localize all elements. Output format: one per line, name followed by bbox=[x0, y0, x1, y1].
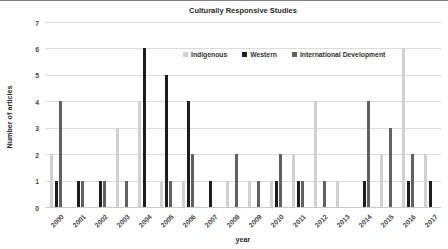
bar-international-development-2009 bbox=[257, 181, 260, 207]
bar-western-2011 bbox=[297, 181, 300, 207]
gridline bbox=[45, 75, 441, 76]
bar-international-development-2000 bbox=[59, 101, 62, 207]
bar-western-2010 bbox=[275, 181, 278, 207]
x-tick-label: 2000 bbox=[49, 213, 65, 229]
bar-international-development-2008 bbox=[235, 154, 238, 207]
x-tick-label: 2001 bbox=[71, 213, 87, 229]
bar-indigenous-2017 bbox=[424, 154, 427, 207]
x-tick-label: 2004 bbox=[137, 213, 153, 229]
legend-swatch-icon bbox=[292, 52, 297, 57]
bar-indigenous-2005 bbox=[160, 181, 163, 207]
legend-swatch-icon bbox=[183, 52, 188, 57]
bar-western-2007 bbox=[209, 181, 212, 207]
y-tick-label: 0 bbox=[0, 204, 39, 213]
y-tick-label: 5 bbox=[0, 71, 39, 80]
bar-western-2004 bbox=[143, 48, 146, 207]
bar-indigenous-2004 bbox=[138, 101, 141, 207]
bar-indigenous-2016 bbox=[402, 48, 405, 207]
bar-indigenous-2010 bbox=[270, 181, 273, 207]
x-tick-label: 2007 bbox=[203, 213, 219, 229]
bar-indigenous-2008 bbox=[226, 181, 229, 207]
gridline bbox=[45, 207, 441, 208]
bar-international-development-2005 bbox=[169, 181, 172, 207]
x-tick-label: 2009 bbox=[247, 213, 263, 229]
legend: IndigenousWesternInternational Developme… bbox=[183, 51, 385, 58]
x-tick-label: 2016 bbox=[401, 213, 417, 229]
bar-international-development-2016 bbox=[411, 154, 414, 207]
chart-title: Culturally Responsive Studies bbox=[45, 6, 441, 15]
bar-western-2005 bbox=[165, 75, 168, 207]
bar-international-development-2010 bbox=[279, 154, 282, 207]
gridline bbox=[45, 48, 441, 49]
bar-indigenous-2003 bbox=[116, 128, 119, 207]
bar-international-development-2014 bbox=[367, 101, 370, 207]
x-tick-label: 2005 bbox=[159, 213, 175, 229]
bar-chart-figure: Culturally Responsive Studies Number of … bbox=[0, 0, 448, 249]
bar-western-2002 bbox=[99, 181, 102, 207]
x-tick-label: 2003 bbox=[115, 213, 131, 229]
bar-indigenous-2015 bbox=[380, 154, 383, 207]
y-tick-label: 1 bbox=[0, 177, 39, 186]
bar-western-2017 bbox=[429, 181, 432, 207]
legend-label: International Development bbox=[300, 51, 385, 58]
bar-western-2001 bbox=[77, 181, 80, 207]
x-tick-label: 2015 bbox=[379, 213, 395, 229]
x-tick-label: 2002 bbox=[93, 213, 109, 229]
bar-international-development-2006 bbox=[191, 154, 194, 207]
x-tick-label: 2017 bbox=[423, 213, 439, 229]
bar-international-development-2001 bbox=[81, 181, 84, 207]
y-tick-label: 4 bbox=[0, 98, 39, 107]
x-tick-label: 2010 bbox=[269, 213, 285, 229]
legend-label: Indigenous bbox=[191, 51, 227, 58]
bar-western-2006 bbox=[187, 101, 190, 207]
bar-indigenous-2000 bbox=[50, 154, 53, 207]
bar-international-development-2002 bbox=[103, 181, 106, 207]
bar-indigenous-2011 bbox=[292, 154, 295, 207]
x-tick-label: 2006 bbox=[181, 213, 197, 229]
bar-western-2016 bbox=[407, 181, 410, 207]
legend-item-international-development: International Development bbox=[292, 51, 385, 58]
bar-international-development-2011 bbox=[301, 181, 304, 207]
legend-swatch-icon bbox=[242, 52, 247, 57]
x-tick-label: 2012 bbox=[313, 213, 329, 229]
bar-international-development-2015 bbox=[389, 128, 392, 207]
bar-international-development-2003 bbox=[125, 181, 128, 207]
bar-western-2000 bbox=[55, 181, 58, 207]
x-axis-title: year bbox=[45, 235, 441, 244]
bar-indigenous-2006 bbox=[182, 181, 185, 207]
y-tick-label: 6 bbox=[0, 45, 39, 54]
y-tick-label: 7 bbox=[0, 19, 39, 28]
legend-item-indigenous: Indigenous bbox=[183, 51, 227, 58]
legend-label: Western bbox=[250, 51, 277, 58]
x-tick-label: 2008 bbox=[225, 213, 241, 229]
x-tick-label: 2013 bbox=[335, 213, 351, 229]
x-tick-label: 2014 bbox=[357, 213, 373, 229]
bar-indigenous-2012 bbox=[314, 101, 317, 207]
y-axis-title: Number of articles bbox=[5, 85, 14, 148]
bar-western-2014 bbox=[363, 181, 366, 207]
y-tick-label: 3 bbox=[0, 124, 39, 133]
gridline bbox=[45, 128, 441, 129]
gridline bbox=[45, 22, 441, 23]
plot-area: IndigenousWesternInternational Developme… bbox=[45, 23, 441, 208]
x-tick-label: 2011 bbox=[292, 213, 307, 228]
bar-indigenous-2009 bbox=[248, 181, 251, 207]
bar-indigenous-2013 bbox=[336, 181, 339, 207]
bar-international-development-2012 bbox=[323, 181, 326, 207]
y-tick-label: 2 bbox=[0, 151, 39, 160]
legend-item-western: Western bbox=[242, 51, 277, 58]
gridline bbox=[45, 101, 441, 102]
